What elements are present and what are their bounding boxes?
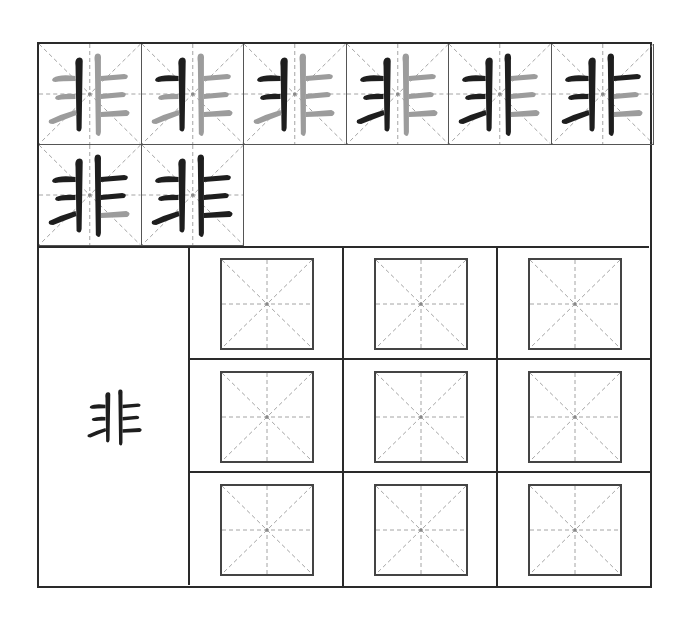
- stroke-step-glyph: [39, 44, 141, 144]
- stroke-step-glyph: [142, 44, 244, 144]
- stroke-order-cell-2: [142, 44, 245, 145]
- stroke-step-glyph: [142, 145, 244, 245]
- practice-grid: [190, 248, 650, 586]
- practice-cell-r2c2[interactable]: [344, 360, 498, 473]
- practice-cell-r3c1[interactable]: [190, 473, 344, 586]
- stroke-order-cell-3: [244, 44, 347, 145]
- stroke-step-glyph: [552, 44, 654, 144]
- stroke-order-cell-7: [39, 145, 142, 246]
- mi-grid-box: [374, 258, 468, 350]
- mi-grid-box: [220, 484, 314, 576]
- stroke-order-cell-5: [449, 44, 552, 145]
- sample-character-glyph: [39, 248, 190, 585]
- practice-cell-r3c2[interactable]: [344, 473, 498, 586]
- mi-grid-box: [374, 371, 468, 463]
- practice-cell-r2c1[interactable]: [190, 360, 344, 473]
- stroke-step-glyph: [347, 44, 449, 144]
- stroke-step-glyph: [39, 145, 141, 245]
- practice-cell-r3c3[interactable]: [498, 473, 651, 586]
- stroke-order-cell-6: [552, 44, 655, 145]
- worksheet-frame: 非: [37, 42, 652, 588]
- practice-cell-r1c2[interactable]: [344, 248, 498, 360]
- stroke-order-grid: [39, 44, 649, 245]
- mi-grid-box: [220, 258, 314, 350]
- stroke-order-cell-4: [347, 44, 450, 145]
- stroke-order-cell-8: [142, 145, 245, 246]
- stroke-step-glyph: [244, 44, 346, 144]
- mi-grid-box: [220, 371, 314, 463]
- stroke-step-glyph: [449, 44, 551, 144]
- stroke-order-cell-1: [39, 44, 142, 145]
- practice-cell-r2c3[interactable]: [498, 360, 651, 473]
- mi-grid-box: [374, 484, 468, 576]
- mi-grid-box: [528, 258, 622, 350]
- mi-grid-box: [528, 484, 622, 576]
- practice-cell-r1c3[interactable]: [498, 248, 651, 360]
- mi-grid-box: [528, 371, 622, 463]
- practice-cell-r1c1[interactable]: [190, 248, 344, 360]
- sample-character-panel: 非: [39, 248, 190, 585]
